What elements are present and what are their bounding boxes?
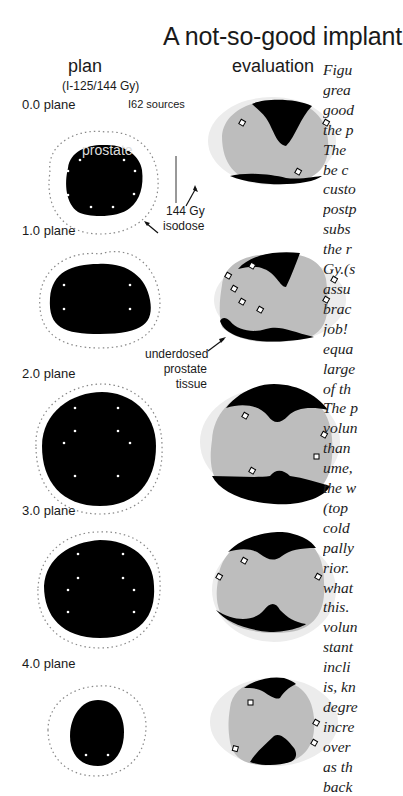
caption-line: (top	[323, 498, 403, 518]
caption-line: back	[323, 777, 403, 796]
plan-diagram-plane-1	[0, 238, 200, 368]
caption-line: is, kn	[323, 677, 403, 697]
caption-line: over	[323, 737, 403, 757]
caption-line: rior.	[323, 558, 403, 578]
plan-diagram-plane-0	[0, 110, 200, 250]
evaluation-diagram-plane-1	[200, 245, 340, 355]
caption-line: good	[323, 100, 403, 120]
caption-line: Gy.(s	[323, 259, 403, 279]
plan-diagram-plane-3	[0, 520, 200, 660]
caption-line: pally	[323, 538, 403, 558]
caption-line: custo	[323, 179, 403, 199]
caption-line: what	[323, 578, 403, 598]
caption-line: the p	[323, 120, 403, 140]
caption-line: than	[323, 438, 403, 458]
caption-line: ume,	[323, 458, 403, 478]
caption-line: incli	[323, 657, 403, 677]
caption-line: postp	[323, 199, 403, 219]
caption-line: brac	[323, 299, 403, 319]
evaluation-column-heading: evaluation	[232, 56, 314, 77]
plan-column-heading: plan	[68, 56, 102, 77]
evaluation-diagram-plane-0	[200, 96, 340, 206]
plan-column-subheading: (I-125/144 Gy)	[62, 79, 139, 93]
plan-diagram-plane-2	[0, 376, 200, 526]
caption-line: large	[323, 359, 403, 379]
caption-line: grea	[323, 80, 403, 100]
caption-line: the r	[323, 239, 403, 259]
caption-line: cold	[323, 518, 403, 538]
caption-line: as th	[323, 757, 403, 777]
caption-line: job!	[323, 319, 403, 339]
figure-title: A not-so-good implant	[163, 22, 402, 51]
caption-line: assu	[323, 279, 403, 299]
caption-line: be c	[323, 160, 403, 180]
caption-line: of th	[323, 379, 403, 399]
caption-line: volun	[323, 418, 403, 438]
caption-line: degre	[323, 697, 403, 717]
caption-line: the w	[323, 478, 403, 498]
caption-line: The	[323, 140, 403, 160]
plan-diagram-plane-4	[0, 678, 200, 788]
caption-line: stant	[323, 637, 403, 657]
caption-line: this.	[323, 597, 403, 617]
caption-line: volun	[323, 617, 403, 637]
caption-line: subs	[323, 219, 403, 239]
caption-line: Figu	[323, 60, 403, 80]
prostate-label: prostate	[82, 142, 133, 158]
caption-line: equa	[323, 339, 403, 359]
figure-caption: Figu grea good the p The be c custo post…	[323, 60, 403, 796]
caption-line: The p	[323, 398, 403, 418]
caption-line: incre	[323, 717, 403, 737]
